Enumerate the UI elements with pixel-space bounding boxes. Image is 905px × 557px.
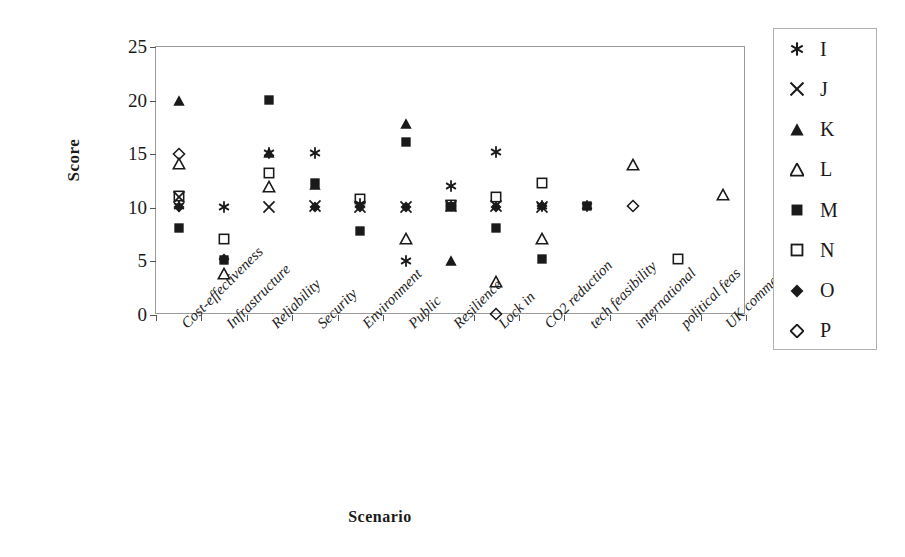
legend-marker-open-square-icon bbox=[774, 243, 820, 257]
legend-item-m[interactable]: M bbox=[774, 191, 876, 229]
legend-marker-cross-icon bbox=[774, 82, 820, 96]
y-tick-mark bbox=[150, 47, 156, 48]
y-axis-tick-labels: 0510152025 bbox=[95, 46, 147, 314]
legend-marker-asterisk-icon bbox=[774, 42, 820, 56]
legend-item-j[interactable]: J bbox=[774, 70, 876, 108]
legend-item-l[interactable]: L bbox=[774, 151, 876, 189]
data-point-m bbox=[536, 253, 548, 265]
data-point-k bbox=[400, 118, 412, 130]
data-point-m bbox=[400, 136, 412, 148]
legend-marker-open-triangle-icon bbox=[774, 163, 820, 177]
data-point-i bbox=[445, 180, 457, 192]
legend-item-i[interactable]: I bbox=[774, 30, 876, 68]
data-point-n bbox=[263, 167, 275, 179]
legend-marker-filled-diamond-icon bbox=[774, 284, 820, 298]
data-point-n bbox=[672, 253, 684, 265]
data-point-m bbox=[354, 225, 366, 237]
legend-label: P bbox=[820, 319, 831, 342]
data-point-l bbox=[400, 233, 412, 245]
y-tick-mark bbox=[150, 101, 156, 102]
legend-marker-open-diamond-icon bbox=[774, 324, 820, 338]
legend-label: N bbox=[820, 239, 834, 262]
data-point-i bbox=[309, 147, 321, 159]
data-point-o bbox=[536, 200, 548, 212]
data-point-o bbox=[309, 201, 321, 213]
data-point-n bbox=[536, 177, 548, 189]
legend-item-o[interactable]: O bbox=[774, 272, 876, 310]
data-point-m bbox=[581, 200, 593, 212]
data-point-l bbox=[627, 159, 639, 171]
data-point-i bbox=[400, 255, 412, 267]
data-point-m bbox=[309, 177, 321, 189]
y-tick-label: 25 bbox=[128, 37, 147, 56]
legend-label: L bbox=[820, 158, 832, 181]
data-point-l bbox=[717, 189, 729, 201]
data-point-o bbox=[400, 201, 412, 213]
data-point-p bbox=[173, 148, 185, 160]
data-point-m bbox=[490, 222, 502, 234]
data-point-m bbox=[173, 222, 185, 234]
legend-label: K bbox=[820, 118, 834, 141]
data-point-p bbox=[627, 200, 639, 212]
data-point-l bbox=[536, 233, 548, 245]
data-point-i bbox=[490, 146, 502, 158]
data-point-o bbox=[354, 201, 366, 213]
y-tick-label: 10 bbox=[128, 197, 147, 216]
legend-marker-filled-square-icon bbox=[774, 203, 820, 217]
data-point-k bbox=[445, 255, 457, 267]
y-tick-label: 5 bbox=[138, 251, 148, 270]
legend-label: O bbox=[820, 279, 834, 302]
scatter-chart-figure: Score 0510152025 Cost-effectivenessInfra… bbox=[0, 0, 905, 557]
legend-label: J bbox=[820, 78, 828, 101]
data-point-l bbox=[263, 181, 275, 193]
data-point-o bbox=[445, 200, 457, 212]
data-point-o bbox=[490, 201, 502, 213]
legend-item-p[interactable]: P bbox=[774, 312, 876, 350]
y-tick-mark bbox=[150, 154, 156, 155]
legend: IJKLMNOP bbox=[773, 28, 877, 350]
data-point-k bbox=[173, 95, 185, 107]
y-tick-mark bbox=[150, 261, 156, 262]
data-point-m bbox=[263, 94, 275, 106]
data-point-j bbox=[263, 201, 275, 213]
data-point-o bbox=[173, 201, 185, 213]
y-axis-title: Score bbox=[64, 100, 84, 220]
y-tick-label: 0 bbox=[138, 305, 148, 324]
data-point-k bbox=[263, 147, 275, 159]
data-point-o bbox=[218, 253, 230, 265]
legend-marker-filled-triangle-icon bbox=[774, 123, 820, 137]
legend-label: M bbox=[820, 199, 838, 222]
legend-item-k[interactable]: K bbox=[774, 111, 876, 149]
legend-item-n[interactable]: N bbox=[774, 231, 876, 269]
x-tick-mark bbox=[156, 315, 157, 321]
data-point-i bbox=[218, 201, 230, 213]
y-tick-label: 20 bbox=[128, 90, 147, 109]
data-point-n bbox=[218, 233, 230, 245]
legend-label: I bbox=[820, 38, 827, 61]
y-tick-mark bbox=[150, 208, 156, 209]
y-tick-label: 15 bbox=[128, 144, 147, 163]
x-axis-title: Scenario bbox=[0, 508, 760, 526]
